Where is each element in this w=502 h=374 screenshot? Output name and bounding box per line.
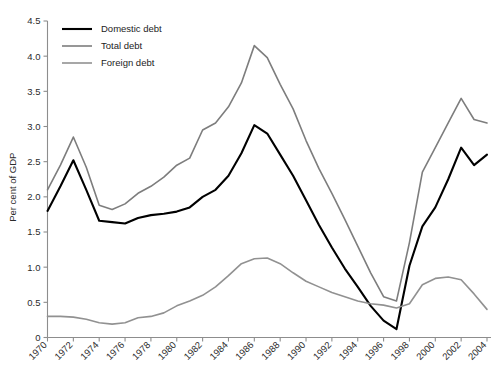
y-tick-label: 3.5 xyxy=(27,86,40,97)
x-tick-label: 1974 xyxy=(78,339,101,362)
series-line xyxy=(48,125,488,329)
y-axis: 00.51.01.52.02.53.03.54.04.5 xyxy=(27,15,47,343)
x-tick-label: 1976 xyxy=(104,339,127,362)
x-axis: 1970197219741976197819801982198419861988… xyxy=(26,338,491,362)
line-chart: 00.51.01.52.02.53.03.54.04.5 19701972197… xyxy=(0,0,502,374)
y-tick-label: 4.5 xyxy=(27,15,40,26)
y-tick-label: 4.0 xyxy=(27,51,40,62)
x-tick-label: 1988 xyxy=(259,339,282,362)
legend-label: Domestic debt xyxy=(101,23,162,34)
y-tick-label: 0.5 xyxy=(27,297,40,308)
x-tick-label: 1996 xyxy=(362,339,385,362)
legend-label: Foreign debt xyxy=(101,57,155,68)
x-tick-label: 1972 xyxy=(52,339,75,362)
x-tick-label: 2002 xyxy=(440,339,463,362)
chart-legend: Domestic debtTotal debtForeign debt xyxy=(62,23,162,68)
x-tick-label: 1994 xyxy=(336,339,359,362)
x-tick-label: 1970 xyxy=(26,339,49,362)
x-tick-label: 2004 xyxy=(466,339,489,362)
legend-label: Total debt xyxy=(101,40,143,51)
x-tick-label: 1998 xyxy=(388,339,411,362)
y-axis-title-text: Per cent of GDP xyxy=(7,153,18,222)
series-line xyxy=(48,258,488,324)
y-tick-label: 3.0 xyxy=(27,121,40,132)
y-tick-label: 1.5 xyxy=(27,226,40,237)
x-tick-label: 1978 xyxy=(130,339,153,362)
x-tick-label: 1984 xyxy=(207,339,230,362)
series-lines xyxy=(48,46,488,329)
x-tick-label: 1982 xyxy=(181,339,204,362)
y-tick-label: 2.0 xyxy=(27,191,40,202)
x-tick-label: 1990 xyxy=(285,339,308,362)
chart-container: 00.51.01.52.02.53.03.54.04.5 19701972197… xyxy=(0,0,502,374)
x-tick-label: 1992 xyxy=(311,339,334,362)
y-tick-label: 1.0 xyxy=(27,262,40,273)
series-line xyxy=(48,46,488,301)
x-tick-label: 2000 xyxy=(414,339,437,362)
x-tick-label: 1986 xyxy=(233,339,256,362)
y-axis-title: Per cent of GDP xyxy=(7,153,18,222)
y-tick-label: 2.5 xyxy=(27,156,40,167)
x-tick-label: 1980 xyxy=(155,339,178,362)
